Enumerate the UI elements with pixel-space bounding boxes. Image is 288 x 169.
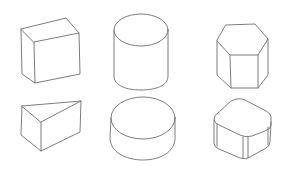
shapes-figure: Hand-drawn 3D primitive shapes [0,0,288,169]
shapes-svg [0,0,288,169]
background [0,0,288,169]
